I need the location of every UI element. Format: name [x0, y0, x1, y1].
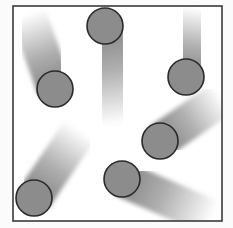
particle-p6 — [104, 161, 140, 197]
particle-box-diagram — [0, 0, 233, 228]
particle-p4 — [142, 123, 178, 159]
particle-p1 — [37, 71, 73, 107]
particle-p5 — [16, 180, 52, 216]
particle-p2 — [87, 8, 123, 44]
particle-p3 — [168, 59, 204, 95]
